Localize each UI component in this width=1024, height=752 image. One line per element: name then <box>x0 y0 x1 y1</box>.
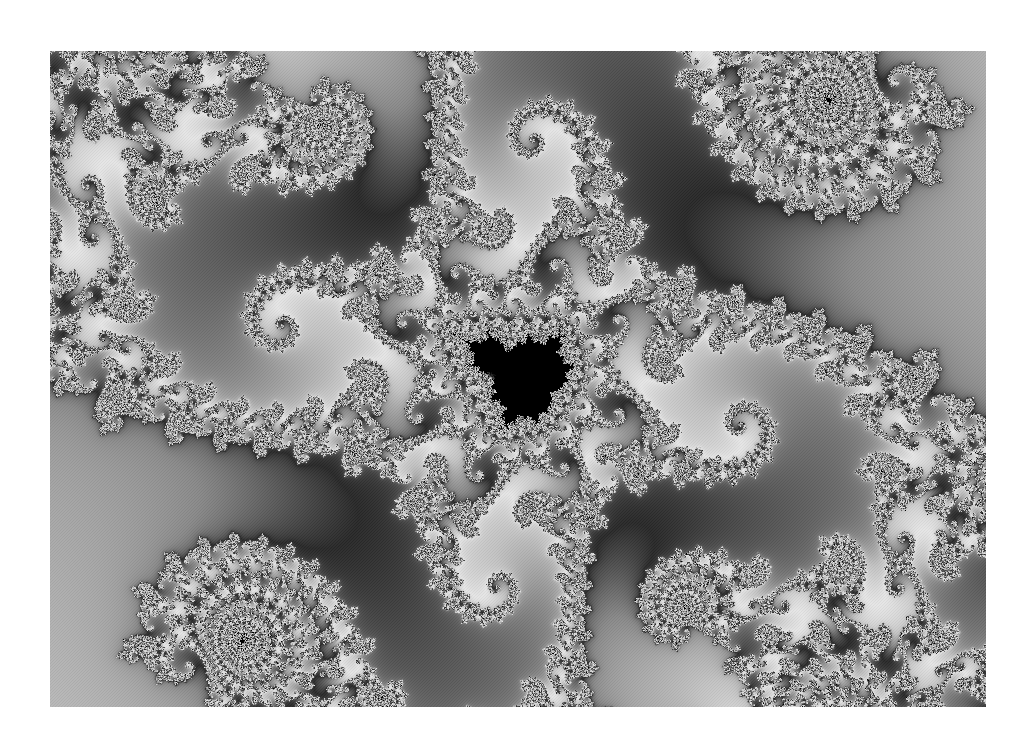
mandelbrot-spiral-image <box>50 51 986 707</box>
fractal-photo <box>50 51 986 707</box>
page <box>0 0 1024 752</box>
